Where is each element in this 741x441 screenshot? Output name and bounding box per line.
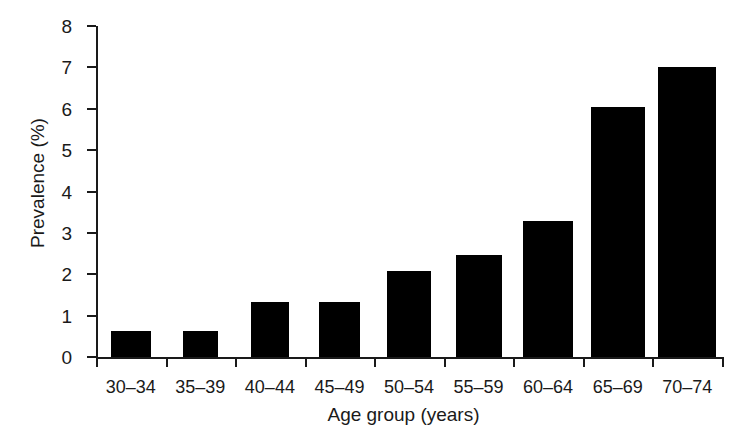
bar <box>111 331 151 357</box>
x-axis-tick-label: 70–74 <box>662 378 712 396</box>
x-axis-tick <box>96 357 98 367</box>
y-axis-tick: 7 <box>87 66 96 68</box>
bar <box>251 302 289 357</box>
y-axis-tick: 8 <box>87 25 96 27</box>
y-axis-tick-label: 6 <box>61 99 72 118</box>
plot-area: 012345678 30–3435–3940–4445–4950–5455–59… <box>96 26 722 357</box>
y-axis-tick-label: 0 <box>61 348 72 367</box>
x-axis-tick <box>722 357 724 367</box>
x-axis-title: Age group (years) <box>0 404 741 426</box>
x-axis-tick <box>513 357 515 367</box>
x-axis-tick <box>652 357 654 367</box>
y-axis-tick: 6 <box>87 108 96 110</box>
x-axis-tick-label: 35–39 <box>175 378 225 396</box>
y-axis-tick-label: 2 <box>61 265 72 284</box>
bar <box>183 331 218 357</box>
x-axis-tick <box>374 357 376 367</box>
x-axis-tick <box>444 357 446 367</box>
bar <box>456 255 502 357</box>
y-axis-tick: 3 <box>87 232 96 234</box>
y-axis-tick: 4 <box>87 191 96 193</box>
y-axis-tick: 1 <box>87 315 96 317</box>
x-axis-tick-label: 50–54 <box>384 378 434 396</box>
x-axis-tick-label: 45–49 <box>314 378 364 396</box>
y-axis-tick-label: 7 <box>61 58 72 77</box>
bars-layer <box>96 26 722 357</box>
bar <box>387 271 431 357</box>
bar-chart: Prevalence (%) 012345678 30–3435–3940–44… <box>0 0 741 441</box>
bar <box>591 107 645 357</box>
y-axis-tick-label: 1 <box>61 306 72 325</box>
y-axis-tick: 5 <box>87 149 96 151</box>
x-axis-tick <box>166 357 168 367</box>
bar <box>523 221 573 357</box>
x-axis-tick <box>235 357 237 367</box>
x-axis-tick <box>583 357 585 367</box>
y-axis-tick: 2 <box>87 273 96 275</box>
x-axis-tick-label: 55–59 <box>454 378 504 396</box>
x-axis-line <box>96 357 724 359</box>
y-axis-title: Prevalence (%) <box>27 83 49 283</box>
y-axis-tick-label: 4 <box>61 182 72 201</box>
x-axis-tick-label: 65–69 <box>593 378 643 396</box>
x-axis-tick <box>305 357 307 367</box>
bar <box>319 302 360 357</box>
bar <box>658 67 716 357</box>
y-axis-tick-label: 8 <box>61 17 72 36</box>
y-axis-tick-label: 3 <box>61 223 72 242</box>
y-axis-tick-label: 5 <box>61 141 72 160</box>
x-axis-tick-label: 30–34 <box>106 378 156 396</box>
x-axis-tick-label: 60–64 <box>523 378 573 396</box>
x-axis-tick-label: 40–44 <box>245 378 295 396</box>
y-axis-tick: 0 <box>87 356 96 358</box>
